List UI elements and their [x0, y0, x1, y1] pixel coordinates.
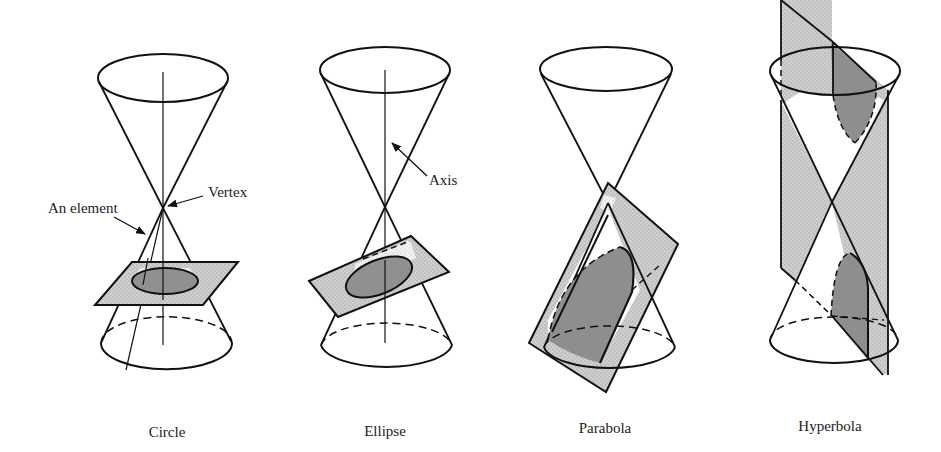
caption-circle: Circle — [149, 424, 186, 441]
circle-section — [132, 268, 198, 294]
hyperbola-diagram — [770, 0, 900, 375]
ellipse-diagram — [309, 47, 452, 367]
axis-label: Axis — [429, 172, 457, 189]
caption-parabola: Parabola — [579, 420, 631, 437]
caption-hyperbola: Hyperbola — [798, 418, 861, 435]
conic-sections-figure: An element Vertex Axis Circle Ellipse Pa… — [0, 0, 941, 452]
element-label: An element — [48, 200, 118, 217]
caption-ellipse: Ellipse — [364, 423, 406, 440]
vertex-label: Vertex — [208, 184, 247, 201]
parabola-diagram — [529, 47, 678, 392]
